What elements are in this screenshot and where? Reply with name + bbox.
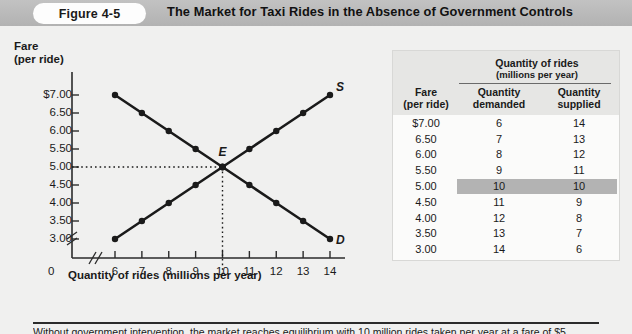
cell-quantity-demanded: 13 — [459, 227, 539, 239]
cell-quantity-demanded: 6 — [459, 117, 539, 129]
cell-fare: 3.00 — [393, 243, 459, 255]
figure-number-badge: Figure 4-5 — [33, 3, 146, 24]
column-header-fare: Fare (per ride) — [393, 87, 459, 110]
column-header-fare-line2: (per ride) — [393, 99, 459, 111]
table-row: 3.00146 — [393, 241, 619, 257]
cell-quantity-supplied: 12 — [539, 148, 619, 160]
caption-divider — [33, 322, 599, 324]
column-header-quantity-demanded: Quantity demanded — [459, 87, 539, 110]
cell-quantity-demanded: 14 — [459, 243, 539, 255]
chart-plot-area: Fare (per ride) — [0, 26, 392, 308]
column-header-fare-line1: Fare — [393, 87, 459, 99]
cell-fare: 4.50 — [393, 196, 459, 208]
cell-fare: 3.50 — [393, 227, 459, 239]
cell-quantity-demanded: 10 — [459, 180, 539, 192]
data-point — [139, 110, 145, 116]
column-header-quantity-supplied: Quantity supplied — [539, 87, 619, 110]
data-point — [166, 128, 172, 134]
y-axis-tick-label: 3.50 — [18, 214, 72, 226]
cell-quantity-supplied: 7 — [539, 227, 619, 239]
x-axis-tick-label: 13 — [290, 265, 316, 277]
data-point — [246, 146, 252, 152]
data-table: Quantity of rides (millions per year) Fa… — [392, 50, 620, 261]
table-row: 6.00812 — [393, 147, 619, 163]
y-axis-tick-label: 4.50 — [18, 178, 72, 190]
data-point — [192, 146, 198, 152]
y-axis-tick-label: 6.50 — [18, 106, 72, 118]
cell-fare: 5.50 — [393, 164, 459, 176]
table-column-headers: Fare (per ride) Quantity demanded Quanti… — [393, 84, 619, 115]
cell-quantity-demanded: 12 — [459, 212, 539, 224]
table-row: 5.50911 — [393, 162, 619, 178]
table-row: 3.50137 — [393, 226, 619, 242]
cell-fare: 5.00 — [393, 180, 459, 192]
cell-quantity-supplied: 11 — [539, 164, 619, 176]
data-point — [300, 110, 306, 116]
origin-label: 0 — [48, 265, 54, 277]
cell-quantity-demanded: 8 — [459, 148, 539, 160]
cell-quantity-demanded: 9 — [459, 164, 539, 176]
cell-quantity-supplied: 8 — [539, 212, 619, 224]
table-row: $7.00614 — [393, 115, 619, 131]
cell-quantity-demanded: 11 — [459, 196, 539, 208]
data-point — [112, 92, 118, 98]
equilibrium-point — [219, 164, 226, 171]
figure-container: Figure 4-5 The Market for Taxi Rides in … — [0, 0, 632, 334]
column-header-demanded-line1: Quantity — [459, 87, 539, 99]
data-point — [246, 182, 252, 188]
data-point — [273, 200, 279, 206]
cell-quantity-supplied: 14 — [539, 117, 619, 129]
y-axis-tick-label: 3.00 — [18, 232, 72, 244]
data-point — [139, 218, 145, 224]
cell-fare: 6.50 — [393, 133, 459, 145]
data-point — [300, 218, 306, 224]
y-axis-tick-label: $7.00 — [18, 88, 72, 100]
table-row: 4.50119 — [393, 194, 619, 210]
cell-quantity-demanded: 7 — [459, 133, 539, 145]
y-axis-tick-label: 5.50 — [18, 142, 72, 154]
table-row: 4.00128 — [393, 210, 619, 226]
equilibrium-label: E — [219, 145, 227, 159]
data-point — [327, 92, 333, 98]
table-row: 5.001010 — [393, 178, 619, 194]
table-row: 6.50713 — [393, 131, 619, 147]
data-point — [327, 236, 333, 242]
y-axis-tick-label: 6.00 — [18, 124, 72, 136]
data-point — [166, 200, 172, 206]
figure-title: The Market for Taxi Rides in the Absence… — [167, 4, 573, 19]
cell-quantity-supplied: 6 — [539, 243, 619, 255]
table-group-header-title: Quantity of rides — [455, 57, 619, 69]
cell-fare: 4.00 — [393, 212, 459, 224]
table-group-header-units: (millions per year) — [455, 69, 619, 81]
supply-curve-label: S — [336, 80, 344, 94]
cell-fare: 6.00 — [393, 148, 459, 160]
x-axis-title: Quantity of rides (millions per year) — [68, 269, 262, 282]
x-axis-tick-label: 12 — [263, 265, 289, 277]
data-point — [112, 236, 118, 242]
data-point — [192, 182, 198, 188]
cell-quantity-supplied: 10 — [539, 180, 619, 192]
column-header-supplied-line1: Quantity — [539, 87, 619, 99]
y-axis-tick-label: 5.00 — [18, 160, 72, 172]
cell-fare: $7.00 — [393, 117, 459, 129]
figure-caption: Without government intervention, the mar… — [33, 326, 599, 334]
demand-curve-label: D — [336, 233, 345, 247]
column-header-supplied-line2: supplied — [539, 99, 619, 111]
y-axis-tick-label: 4.00 — [18, 196, 72, 208]
data-point — [273, 128, 279, 134]
table-body: $7.006146.507136.008125.509115.0010104.5… — [393, 115, 619, 260]
table-header: Quantity of rides (millions per year) Fa… — [393, 51, 619, 115]
table-group-header: Quantity of rides (millions per year) — [393, 56, 619, 83]
cell-quantity-supplied: 13 — [539, 133, 619, 145]
x-axis-tick-label: 14 — [317, 265, 343, 277]
column-header-demanded-line2: demanded — [459, 99, 539, 111]
cell-quantity-supplied: 9 — [539, 196, 619, 208]
